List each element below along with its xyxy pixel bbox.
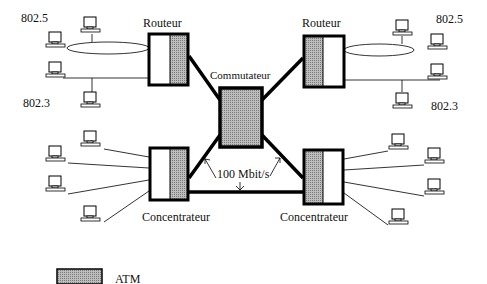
computer-icon [425,148,444,163]
computer-icon [81,206,100,221]
computer-icon [46,32,65,47]
hub-right [304,150,343,204]
computer-icon [81,17,100,32]
computer-icon [46,62,65,77]
switch [220,88,262,147]
computer-icon [389,134,408,149]
computer-icon [81,131,100,146]
hub-left [150,148,188,200]
legend-swatch [57,269,102,284]
computer-icon [46,176,65,191]
link-speed-label: 100 Mbit/s [217,168,269,180]
lan-right-top [344,36,440,92]
switch-label: Commutateur [210,70,271,81]
network-diagram [0,0,487,284]
computer-icon [46,146,65,161]
hub-left-links [68,149,149,222]
legend-label: ATM [115,273,140,284]
router-right [304,36,344,87]
lan-label-802-3-right: 802.3 [431,100,458,112]
lan-label-802-5-right: 802.5 [436,13,463,25]
computer-icon [428,64,447,79]
computer-icon [425,179,444,194]
hub-right-label: Concentrateur [280,211,348,223]
computer-icon [393,20,412,35]
hub-right-links [344,151,424,225]
router-right-label: Routeur [302,17,341,29]
lan-label-802-3-left: 802.3 [23,97,50,109]
router-left [149,34,188,85]
computer-icon [393,93,412,108]
computer-icon [428,34,447,49]
lan-label-802-5-left: 802.5 [21,12,48,24]
computer-icon [389,209,408,224]
lan-left-top [63,34,149,92]
hub-left-label: Concentrateur [142,211,210,223]
router-left-label: Routeur [143,17,182,29]
computer-icon [81,92,100,107]
